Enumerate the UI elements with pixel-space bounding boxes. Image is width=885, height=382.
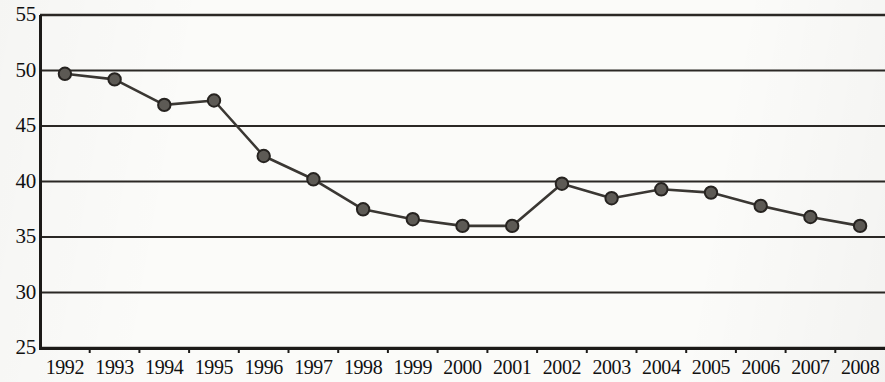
data-point-marker: 2006: 37.8: [755, 200, 767, 212]
x-axis-tick-label: 2005: [686, 355, 736, 379]
data-point-marker: 2003: 38.5: [605, 192, 617, 204]
data-series-line: [65, 74, 860, 226]
data-point-marker: 2004: 39.3: [655, 183, 667, 195]
x-axis-tick-label: 1993: [90, 355, 140, 379]
x-axis-tick-label: 1994: [139, 355, 189, 379]
data-point-marker: 1996: 42.3: [258, 150, 270, 162]
x-axis-tick-label: 2000: [438, 355, 488, 379]
data-point-marker: 1995: 47.3: [208, 94, 220, 106]
y-axis-tick-label: 50: [2, 60, 36, 81]
data-point-marker: 1999: 36.6: [407, 213, 419, 225]
data-point-marker: 1993: 49.2: [108, 73, 120, 85]
x-axis-tick-label: 1997: [289, 355, 339, 379]
y-axis-tick-label: 35: [2, 226, 36, 247]
x-axis-tick-label: 1996: [239, 355, 289, 379]
line-chart-figure: 1992: 49.71993: 49.21994: 46.91995: 47.3…: [0, 0, 885, 382]
data-point-marker: 2008: 36: [854, 220, 866, 232]
x-axis-tick-label: 1992: [40, 355, 90, 379]
y-axis-tick-label: 25: [2, 337, 36, 358]
x-axis-tick-label: 1999: [388, 355, 438, 379]
x-axis-labels: 1992199319941995199619971998199920002001…: [40, 355, 885, 382]
x-axis-tick-label: 1998: [338, 355, 388, 379]
x-axis-tick-label: 2008: [835, 355, 885, 379]
chart-plot-area: 1992: 49.71993: 49.21994: 46.91995: 47.3…: [0, 0, 885, 382]
x-axis-tick-label: 2003: [587, 355, 637, 379]
data-point-marker: 2005: 39: [705, 186, 717, 198]
x-axis-tick-label: 1995: [189, 355, 239, 379]
y-axis-labels: 25303540455055: [0, 0, 36, 382]
x-axis-tick-label: 2007: [786, 355, 836, 379]
data-point-marker: 2007: 36.8: [804, 211, 816, 223]
x-axis-tick-label: 2006: [736, 355, 786, 379]
y-axis-tick-label: 45: [2, 115, 36, 136]
data-point-marker: 1997: 40.2: [307, 173, 319, 185]
y-axis-tick-label: 30: [2, 282, 36, 303]
x-axis-tick-label: 2002: [537, 355, 587, 379]
data-point-marker: 1994: 46.9: [158, 99, 170, 111]
data-point-marker: 2001: 36: [506, 220, 518, 232]
data-point-marker: 1998: 37.5: [357, 203, 369, 215]
gridlines: [40, 15, 885, 348]
data-point-markers: 1992: 49.71993: 49.21994: 46.91995: 47.3…: [59, 68, 867, 232]
data-point-marker: 1992: 49.7: [59, 68, 71, 80]
x-axis-tick-label: 2004: [636, 355, 686, 379]
y-axis-tick-label: 55: [2, 4, 36, 25]
data-point-marker: 2000: 36: [456, 220, 468, 232]
x-axis-tick-label: 2001: [487, 355, 537, 379]
y-axis-tick-label: 40: [2, 171, 36, 192]
data-point-marker: 2002: 39.8: [556, 178, 568, 190]
